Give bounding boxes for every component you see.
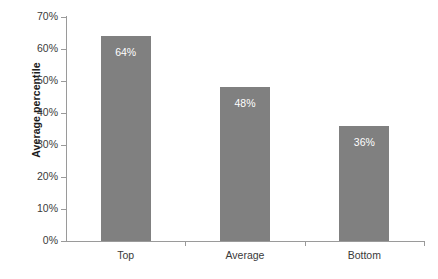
- y-axis-tick: [61, 241, 66, 242]
- y-axis-tick: [61, 177, 66, 178]
- y-axis-tick: [61, 145, 66, 146]
- bar-value-label: 36%: [339, 136, 389, 148]
- y-axis-tick: [61, 113, 66, 114]
- y-axis-tick: [61, 209, 66, 210]
- x-axis-category-label: Average: [185, 249, 305, 261]
- x-axis-tick: [185, 241, 186, 246]
- y-axis-line: [66, 16, 67, 242]
- bar-value-label: 64%: [101, 46, 151, 58]
- bar[interactable]: 64%: [101, 36, 151, 241]
- y-axis-tick-label: 30%: [8, 139, 58, 149]
- y-axis-tick: [61, 81, 66, 82]
- y-axis-tick-label: 0%: [8, 235, 58, 245]
- y-axis-tick-label: 40%: [8, 107, 58, 117]
- bar[interactable]: 36%: [339, 126, 389, 241]
- x-axis-category-label: Top: [66, 249, 186, 261]
- bar-value-label: 48%: [220, 97, 270, 109]
- y-axis-tick: [61, 17, 66, 18]
- y-axis-tick-label: 20%: [8, 171, 58, 181]
- y-axis-tick-label: 60%: [8, 43, 58, 53]
- x-axis-line: [66, 241, 424, 242]
- y-axis-tick-label: 70%: [8, 11, 58, 21]
- y-axis-tick: [61, 49, 66, 50]
- y-axis-tick-label: 10%: [8, 203, 58, 213]
- x-axis-tick: [305, 241, 306, 246]
- x-axis-tick: [424, 241, 425, 246]
- y-axis-tick-label: 50%: [8, 75, 58, 85]
- bar-chart: Average percentile 0%10%20%30%40%50%60%7…: [0, 0, 438, 279]
- x-axis-category-label: Bottom: [304, 249, 424, 261]
- bar[interactable]: 48%: [220, 87, 270, 241]
